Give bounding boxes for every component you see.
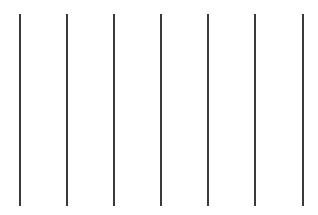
- vertical-line-7: [302, 14, 304, 206]
- vertical-line-3: [113, 14, 115, 206]
- vertical-line-5: [207, 14, 209, 206]
- vertical-line-2: [66, 14, 68, 206]
- vertical-line-6: [254, 14, 256, 206]
- vertical-line-1: [19, 14, 21, 206]
- vertical-line-4: [160, 14, 162, 206]
